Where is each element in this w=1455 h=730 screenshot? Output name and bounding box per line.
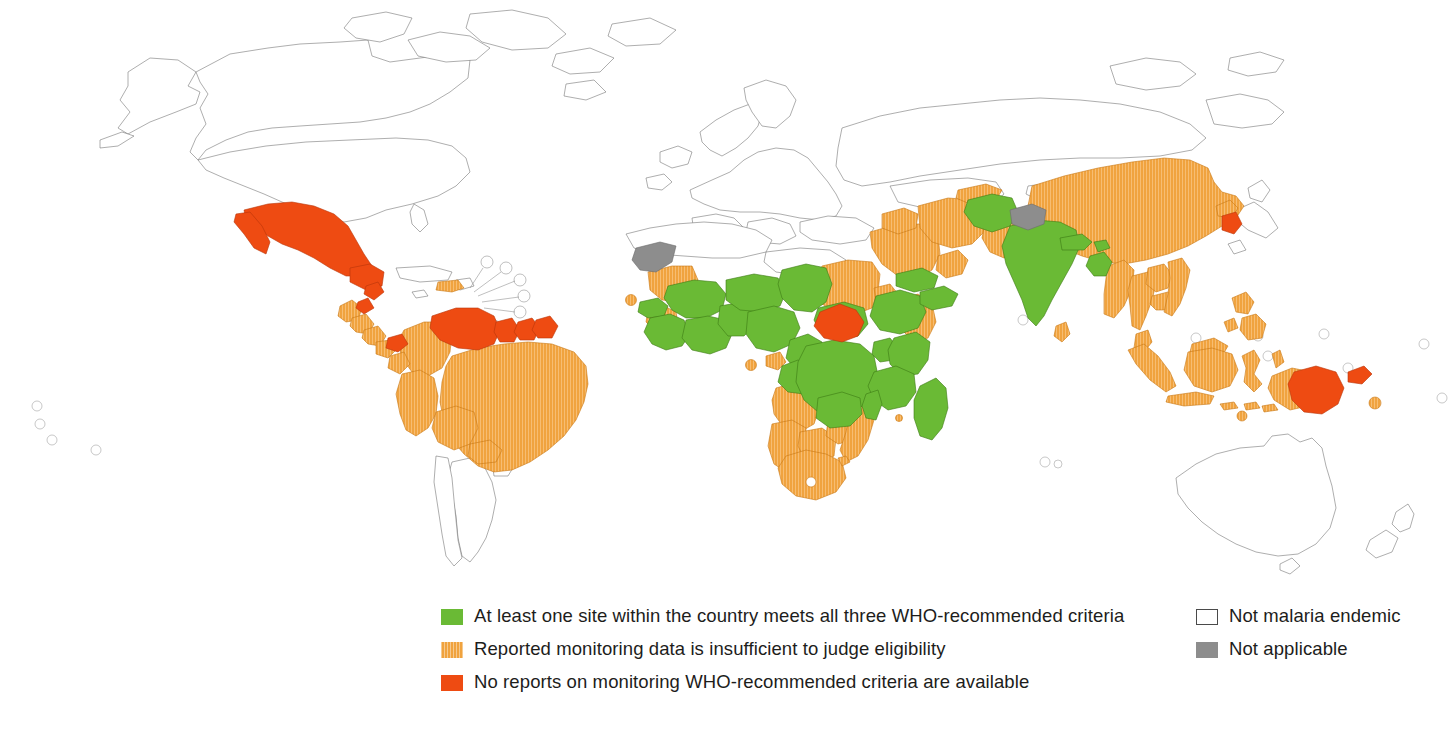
legend-swatch-red [441, 675, 463, 691]
legend-swatch-white [1196, 609, 1218, 625]
legend-item-orange: Reported monitoring data is insufficient… [441, 633, 1124, 666]
legend-label-green: At least one site within the country mee… [474, 607, 1124, 626]
legend-swatch-orange [441, 642, 463, 658]
legend-item-red: No reports on monitoring WHO-recommended… [441, 666, 1124, 699]
legend-swatch-gray [1196, 642, 1218, 658]
legend-main-column: At least one site within the country mee… [441, 600, 1124, 699]
legend-side-column: Not malaria endemic Not applicable [1196, 600, 1401, 666]
legend-item-green: At least one site within the country mee… [441, 600, 1124, 633]
map-legend: At least one site within the country mee… [0, 600, 1455, 730]
legend-label-orange: Reported monitoring data is insufficient… [474, 640, 946, 659]
legend-item-not-endemic: Not malaria endemic [1196, 600, 1401, 633]
map-canvas [0, 0, 1455, 600]
legend-label-red: No reports on monitoring WHO-recommended… [474, 673, 1029, 692]
legend-swatch-green [441, 609, 463, 625]
legend-label-not-applicable: Not applicable [1229, 640, 1348, 659]
legend-label-not-endemic: Not malaria endemic [1229, 607, 1401, 626]
legend-item-not-applicable: Not applicable [1196, 633, 1401, 666]
world-map-svg [0, 0, 1455, 600]
world-map-figure: At least one site within the country mee… [0, 0, 1455, 730]
